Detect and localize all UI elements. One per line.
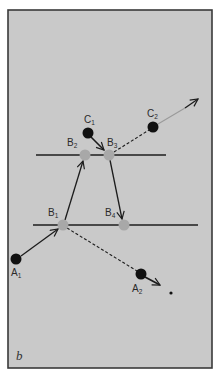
particle-b4 <box>119 220 130 231</box>
particle-b2 <box>80 150 91 161</box>
scattering-diagram: A1 A2 B1 B2 B3 B4 C1 C2 b <box>0 0 216 373</box>
end-dot <box>169 291 172 294</box>
particle-c2 <box>148 122 159 133</box>
figure-panel-b: A1 A2 B1 B2 B3 B4 C1 C2 b <box>0 0 216 373</box>
particle-a1 <box>11 254 22 265</box>
figure-frame <box>8 10 212 368</box>
particle-b3 <box>104 150 115 161</box>
particle-c1 <box>83 128 94 139</box>
particle-b1 <box>58 220 69 231</box>
panel-label: b <box>16 348 23 363</box>
particle-a2 <box>136 269 147 280</box>
